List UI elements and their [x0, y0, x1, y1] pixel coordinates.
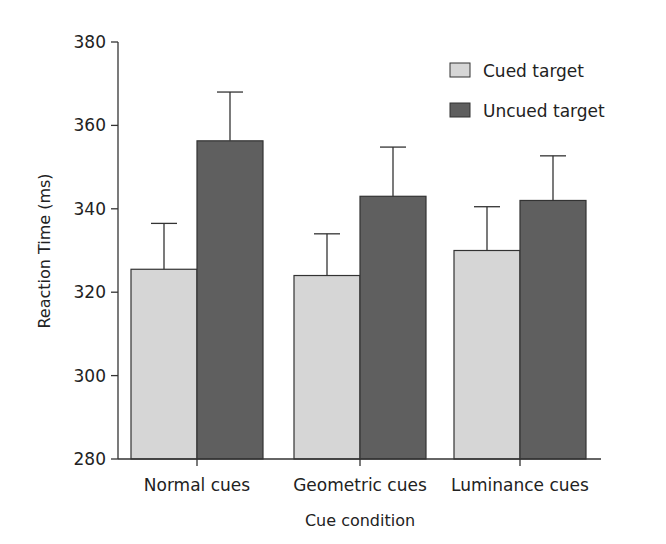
legend: Cued targetUncued target	[450, 61, 605, 121]
x-axis: Normal cuesGeometric cuesLuminance cues	[118, 459, 601, 495]
x-tick-label: Luminance cues	[451, 475, 589, 495]
legend-label: Uncued target	[483, 101, 605, 121]
y-tick-label: 320	[74, 282, 106, 302]
bar-cued-target	[454, 251, 520, 460]
legend-swatch	[450, 63, 470, 77]
y-tick-label: 340	[74, 199, 106, 219]
y-tick-label: 300	[74, 366, 106, 386]
bar-uncued-target	[197, 141, 263, 459]
y-tick-label: 360	[74, 115, 106, 135]
bar-cued-target	[131, 269, 197, 459]
x-tick-label: Geometric cues	[293, 475, 427, 495]
y-tick-label: 380	[74, 32, 106, 52]
bar-uncued-target	[520, 200, 586, 459]
legend-label: Cued target	[483, 61, 584, 81]
y-axis-title: Reaction Time (ms)	[35, 173, 54, 328]
x-tick-label: Normal cues	[144, 475, 250, 495]
bar-chart: 280300320340360380 Normal cuesGeometric …	[0, 0, 666, 544]
legend-swatch	[450, 103, 470, 117]
y-tick-label: 280	[74, 449, 106, 469]
x-axis-title: Cue condition	[305, 511, 415, 530]
bar-uncued-target	[360, 196, 426, 459]
bar-cued-target	[294, 276, 360, 459]
y-axis: 280300320340360380	[74, 32, 118, 469]
bars	[131, 92, 586, 459]
